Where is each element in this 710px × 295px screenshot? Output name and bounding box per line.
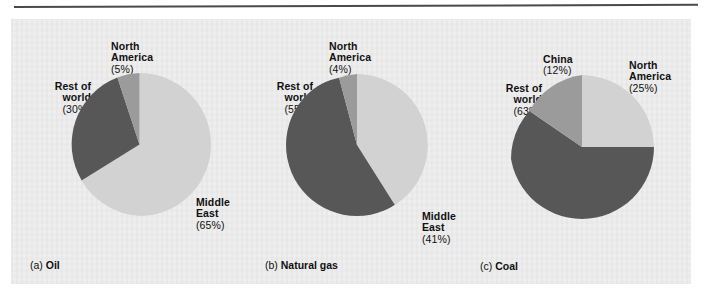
caption-natural-gas: (b) Natural gas (265, 259, 338, 271)
caption-coal: (c) Coal (480, 260, 518, 272)
label-percent: (41%) (422, 234, 456, 246)
caption-name: Oil (46, 259, 60, 271)
panel-coal: China (12%) Rest of world (63%) North Am… (471, 19, 701, 284)
pie-chart-oil (68, 73, 211, 216)
caption-tag: (b) (265, 259, 278, 271)
caption-oil: (a) Oil (30, 259, 60, 271)
top-horizontal-rule (14, 4, 698, 8)
label-percent: (12%) (543, 65, 573, 77)
label-text: China (543, 53, 573, 65)
pie-svg-natural-gas (286, 74, 428, 216)
caption-name: Natural gas (281, 259, 338, 271)
label-oil-middle-east: Middle East (65%) (196, 185, 230, 243)
label-text: North America (111, 40, 153, 64)
panel-oil: North America (5%) Rest of world (30%) M… (11, 19, 241, 284)
label-text: Middle East (196, 196, 230, 220)
label-gas-middle-east: Middle East (41%) (422, 199, 456, 257)
label-percent: (25%) (629, 83, 671, 95)
pie-svg-oil (68, 73, 211, 216)
label-text: North America (329, 40, 371, 64)
pie-chart-coal (510, 75, 654, 219)
caption-name: Coal (495, 260, 518, 272)
pie-chart-natural-gas (286, 74, 428, 216)
panel-natural-gas: North America (4%) Rest of world (55%) M… (241, 19, 471, 284)
caption-tag: (c) (480, 260, 492, 272)
label-coal-north-america: North America (25%) (629, 48, 671, 106)
label-text: North America (629, 59, 671, 83)
label-text: Middle East (422, 210, 456, 234)
figure-three-pie-charts: North America (5%) Rest of world (30%) M… (0, 0, 710, 295)
label-percent: (65%) (196, 220, 230, 232)
pie-svg-coal (510, 75, 654, 219)
caption-tag: (a) (30, 259, 43, 271)
